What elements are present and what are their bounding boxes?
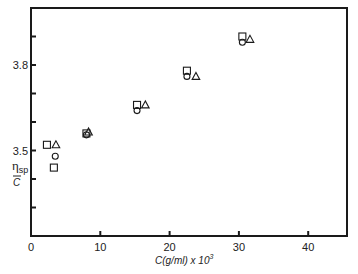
x-axis-ticks: 010203040 bbox=[28, 231, 314, 253]
triangle-marker bbox=[192, 72, 200, 79]
plot-frame bbox=[31, 8, 347, 236]
scatter-chart: 010203040 3.53.8 C(g/ml) x 103 ηsp C bbox=[0, 0, 358, 274]
triangle-marker bbox=[246, 35, 254, 42]
y-tick-label: 3.5 bbox=[13, 145, 28, 157]
x-tick-label: 40 bbox=[302, 241, 314, 253]
square-marker bbox=[50, 164, 57, 171]
triangle-marker bbox=[52, 141, 60, 148]
y-tick-label: 3.8 bbox=[13, 59, 28, 71]
circle-marker bbox=[52, 153, 58, 159]
svg-text:ηsp: ηsp bbox=[12, 158, 28, 175]
y-axis-label: ηsp C bbox=[12, 158, 28, 188]
svg-text:C: C bbox=[13, 177, 21, 188]
triangle-marker bbox=[142, 101, 150, 108]
x-tick-label: 10 bbox=[94, 241, 106, 253]
data-points bbox=[43, 33, 253, 171]
x-tick-label: 30 bbox=[233, 241, 245, 253]
x-axis-label: C(g/ml) x 103 bbox=[155, 253, 213, 266]
x-tick-label: 20 bbox=[163, 241, 175, 253]
square-marker bbox=[43, 141, 50, 148]
x-tick-label: 0 bbox=[28, 241, 34, 253]
